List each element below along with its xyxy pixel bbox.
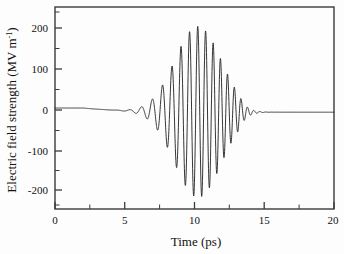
waveform-curve — [55, 26, 334, 196]
y-axis-title-close: ) — [4, 27, 19, 31]
svg-text:Electric field strength (MV m-: Electric field strength (MV m-1) — [4, 27, 19, 192]
y-tick-label-100: 100 — [32, 63, 49, 75]
x-tick-label-0: 0 — [52, 214, 58, 226]
x-tick-label-5: 5 — [122, 214, 128, 226]
waveform-path — [55, 26, 334, 196]
x-axis-major-ticks — [55, 202, 334, 209]
y-axis-major-ticks — [55, 28, 62, 190]
y-tick-label-neg100: -100 — [28, 145, 49, 157]
x-axis-title: Time (ps) — [171, 234, 221, 249]
x-tick-label-15: 15 — [259, 214, 271, 226]
chart-canvas: 200 100 0 -100 -200 0 5 10 15 20 Time (p… — [0, 0, 344, 254]
chart-figure: 200 100 0 -100 -200 0 5 10 15 20 Time (p… — [0, 0, 344, 254]
x-tick-label-20: 20 — [328, 214, 340, 226]
y-tick-label-0: 0 — [43, 104, 49, 116]
x-tick-label-10: 10 — [189, 214, 201, 226]
y-axis-title-superscript: -1 — [5, 32, 14, 39]
y-tick-label-neg200: -200 — [28, 184, 49, 196]
y-tick-label-200: 200 — [32, 22, 49, 34]
y-axis-title: Electric field strength (MV m-1) — [4, 27, 19, 192]
y-axis-title-main: Electric field strength (MV m — [4, 38, 19, 192]
